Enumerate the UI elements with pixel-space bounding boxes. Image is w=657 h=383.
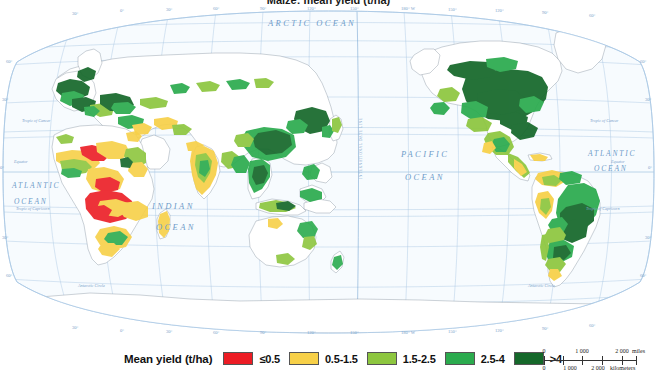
legend-label-1: 0.5-1.5	[325, 353, 358, 365]
scale-tick-2	[582, 356, 583, 365]
scale-miles-tick-1: 1 000	[575, 348, 589, 354]
scale-miles-unit: miles	[632, 348, 645, 354]
scale-km-tick-1: 1 000	[563, 365, 577, 371]
scale-tick-4	[622, 356, 623, 365]
scale-tick-0	[544, 356, 545, 365]
scale-km-tick-0: 0	[543, 365, 546, 371]
map-graphics	[0, 7, 657, 337]
scale-bar: 0 1 000 2 000 miles 0 1 000 2 000 kilome…	[540, 348, 652, 378]
scale-tick-5	[636, 356, 637, 365]
legend-row: Mean yield (t/ha) ≤0.5 0.5-1.5 1.5-2.5 2…	[124, 352, 562, 365]
scale-tick-3	[602, 356, 603, 365]
scale-tick-1	[563, 356, 564, 365]
legend-swatch-0[interactable]	[223, 352, 253, 365]
legend-swatch-2[interactable]	[367, 352, 397, 365]
legend-swatch-3[interactable]	[445, 352, 475, 365]
scale-bar-graphic	[540, 356, 652, 365]
scale-bar-km-row: 0 1 000 2 000 kilometers	[540, 365, 652, 373]
scale-km-tick-2: 2 000	[591, 365, 605, 371]
legend-label-0: ≤0.5	[259, 353, 280, 365]
world-map[interactable]: ARCTIC OCEAN ATLANTIC OCEAN INDIAN OCEAN…	[0, 7, 657, 337]
page-title: Maize: mean yield (t/ha)	[0, 0, 657, 7]
legend-title: Mean yield (t/ha)	[124, 353, 212, 365]
legend-label-2: 1.5-2.5	[403, 353, 436, 365]
scale-miles-tick-0: 0	[543, 348, 546, 354]
map-page: Maize: mean yield (t/ha)	[0, 0, 657, 383]
legend-swatch-1[interactable]	[289, 352, 319, 365]
legend-label-3: 2.5-4	[481, 353, 505, 365]
scale-miles-tick-2: 2 000	[615, 348, 629, 354]
scale-km-unit: kilometers	[610, 365, 635, 371]
scale-bar-miles-row: 0 1 000 2 000 miles	[540, 348, 652, 356]
